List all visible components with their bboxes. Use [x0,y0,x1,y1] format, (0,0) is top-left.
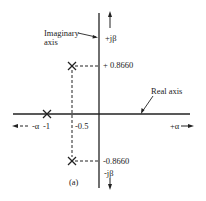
imaginary-axis-label-line2: axis [44,37,58,47]
complex-plane-diagram: Imaginary axis +jβ + 0.8660 Real axis -α… [0,0,206,201]
tick-real-minus-one: -1 [43,121,50,131]
arrow-left-icon [12,124,30,128]
negative-imaginary-label: -jβ [104,168,114,178]
real-axis-label: Real axis [151,86,182,96]
pole-marker-lower [68,157,76,165]
tick-real-minus-half: -0.5 [75,121,88,131]
pole-marker-upper [68,62,76,70]
imaginary-axis-pointer [78,33,98,39]
tick-imag-pos: + 0.8660 [103,60,133,70]
positive-imaginary-label: +jβ [105,33,116,43]
real-axis-pointer [141,96,153,114]
tick-imag-neg: -0.8660 [103,156,129,166]
positive-real-label: +α [170,121,180,131]
negative-real-label: -α [32,121,40,131]
figure-caption: (a) [69,177,79,187]
arrow-up-icon [108,11,112,28]
arrow-right-icon [181,124,194,128]
arrow-down-icon [108,178,112,190]
